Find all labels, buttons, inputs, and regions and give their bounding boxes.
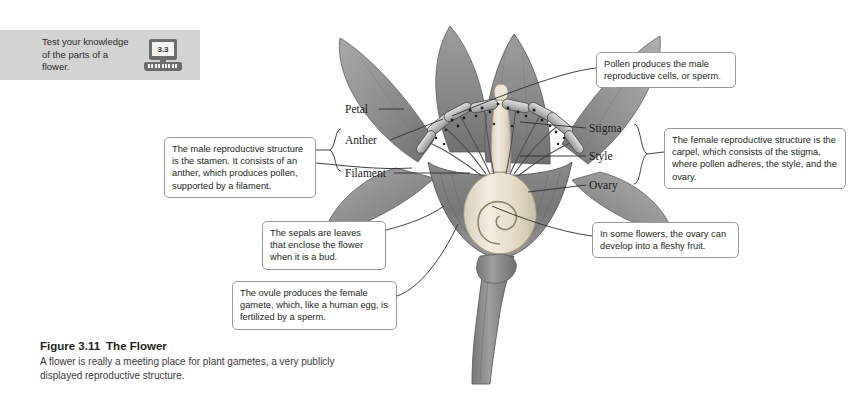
label-ovary: Ovary [589, 179, 618, 191]
callout-stamen: The male reproductive structure is the s… [164, 137, 316, 198]
callout-sepals: The sepals are leaves that enclose the f… [262, 221, 386, 270]
label-anther: Anther [345, 134, 377, 146]
test-knowledge-banner: Test your knowledge of the parts of a fl… [0, 30, 200, 80]
callout-carpel: The female reproductive structure is the… [664, 128, 846, 189]
label-style: Style [589, 150, 613, 162]
banner-prompt-text: Test your knowledge of the parts of a fl… [42, 36, 137, 74]
caption-body: A flower is really a meeting place for p… [40, 355, 370, 382]
caption-title-line: Figure 3.11The Flower [40, 340, 370, 352]
callout-ovule: The ovule produces the female gamete, wh… [232, 281, 397, 330]
figure-caption: Figure 3.11The Flower A flower is really… [40, 340, 370, 382]
callout-pollen: Pollen produces the male reproductive ce… [596, 52, 736, 88]
keyboard [144, 62, 182, 71]
keyboard-keys [148, 64, 178, 68]
stigma [494, 84, 508, 100]
monitor-screen-number: 3.3 [152, 42, 174, 56]
callout-fruit: In some flowers, the ovary can develop i… [592, 222, 739, 258]
figure-number: Figure 3.11 [40, 340, 100, 352]
label-filament: Filament [345, 167, 386, 179]
label-petal: Petal [345, 103, 368, 115]
computer-icon: 3.3 [143, 37, 183, 73]
figure-title: The Flower [106, 340, 167, 352]
label-stigma: Stigma [589, 122, 622, 134]
monitor-body: 3.3 [149, 39, 177, 60]
